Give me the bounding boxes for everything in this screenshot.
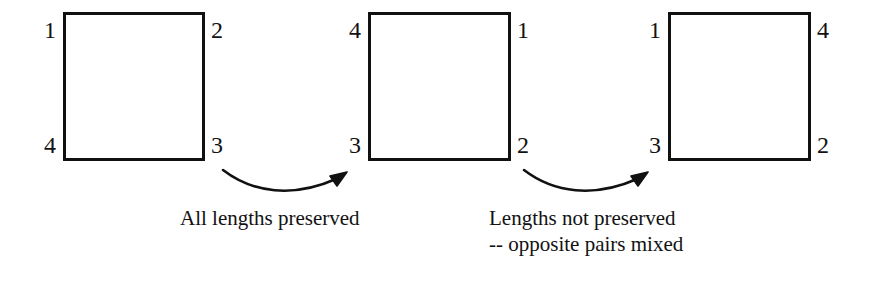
square-outline-1	[63, 12, 205, 161]
square-outline-3	[668, 12, 811, 161]
square-2-corner-top-left: 4	[327, 18, 361, 42]
square-1-corner-top-left: 1	[22, 18, 56, 42]
square-3-corner-top-left: 1	[627, 18, 661, 42]
square-outline-2	[368, 12, 511, 161]
square-2-corner-top-right: 1	[517, 18, 551, 42]
caption-second-line-2: -- opposite pairs mixed	[489, 231, 683, 257]
square-1-corner-bottom-left: 4	[22, 133, 56, 157]
square-2-corner-bottom-right: 2	[517, 133, 551, 157]
square-3-corner-bottom-right: 2	[817, 133, 851, 157]
caption-first: All lengths preserved	[180, 205, 360, 231]
transform-arrow-first-icon	[215, 160, 365, 205]
square-1-corner-top-right: 2	[211, 18, 245, 42]
square-3-corner-bottom-left: 3	[627, 133, 661, 157]
caption-first-line-1: All lengths preserved	[180, 205, 360, 231]
transform-arrow-second-icon	[516, 160, 666, 205]
square-1-corner-bottom-right: 3	[211, 133, 245, 157]
square-2-corner-bottom-left: 3	[327, 133, 361, 157]
caption-second: Lengths not preserved -- opposite pairs …	[489, 205, 683, 257]
caption-second-line-1: Lengths not preserved	[489, 205, 683, 231]
square-3-corner-top-right: 4	[817, 18, 851, 42]
diagram-canvas: 1 2 4 3 4 1 3 2 1 4 3 2 All lengths pres…	[0, 0, 873, 290]
